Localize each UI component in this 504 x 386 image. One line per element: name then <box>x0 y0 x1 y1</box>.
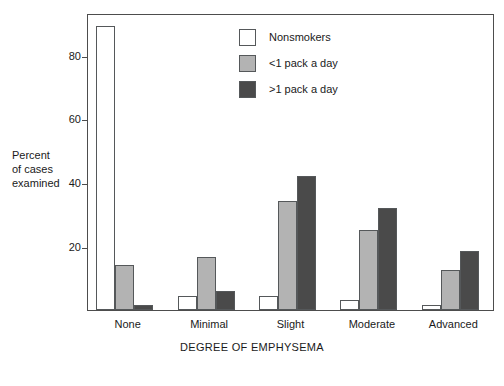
x-axis-category-label: Slight <box>277 318 305 331</box>
legend-swatch-more-than-one-pack <box>239 81 256 98</box>
y-axis-title-line-3: examined <box>12 176 84 190</box>
bar <box>441 270 460 310</box>
bar-group <box>178 15 235 310</box>
bar <box>278 201 297 310</box>
bar <box>259 296 278 310</box>
legend-label-more-than-one-pack: >1 pack a day <box>269 83 338 96</box>
y-axis-tick-label: 20 <box>69 242 81 253</box>
x-axis-category-label: None <box>115 318 141 331</box>
bar-group <box>96 15 153 310</box>
legend-item: <1 pack a day <box>239 50 389 76</box>
bar <box>340 300 359 310</box>
x-axis-title: DEGREE OF EMPHYSEMA <box>0 341 504 353</box>
bar <box>297 176 316 310</box>
bar <box>422 305 441 310</box>
legend-swatch-nonsmokers <box>239 29 256 46</box>
x-axis-category-label: Advanced <box>429 318 478 331</box>
legend-label-less-than-one-pack: <1 pack a day <box>269 57 338 70</box>
bar <box>359 230 378 310</box>
y-axis-title-line-1: Percent <box>12 148 84 162</box>
bar <box>460 251 479 310</box>
legend-item: Nonsmokers <box>239 24 389 50</box>
legend-item: >1 pack a day <box>239 76 389 102</box>
y-axis-tick-label: 60 <box>69 114 81 125</box>
y-axis-tick <box>82 120 88 121</box>
bar <box>96 26 115 310</box>
y-axis-tick <box>82 57 88 58</box>
chart-figure: 20406080 Percent of cases examined Nonsm… <box>0 0 504 386</box>
y-axis-title: Percent of cases examined <box>12 148 84 190</box>
y-axis-tick <box>82 184 88 185</box>
x-axis-category-label: Minimal <box>190 318 228 331</box>
y-axis-tick <box>82 248 88 249</box>
plot-frame: Nonsmokers <1 pack a day >1 pack a day <box>87 14 494 311</box>
legend-swatch-less-than-one-pack <box>239 55 256 72</box>
y-axis-tick-label: 80 <box>69 51 81 62</box>
x-axis-category-label: Moderate <box>349 318 395 331</box>
bar <box>197 257 216 310</box>
legend-label-nonsmokers: Nonsmokers <box>269 31 331 44</box>
x-axis-category-labels: NoneMinimalSlightModerateAdvanced <box>87 318 494 334</box>
bar <box>378 208 397 310</box>
bar-group <box>422 15 479 310</box>
bar <box>115 265 134 310</box>
bar <box>216 291 235 310</box>
y-axis-title-line-2: of cases <box>12 162 84 176</box>
bar <box>178 296 197 310</box>
chart-legend: Nonsmokers <1 pack a day >1 pack a day <box>239 24 389 102</box>
bar <box>134 305 153 310</box>
